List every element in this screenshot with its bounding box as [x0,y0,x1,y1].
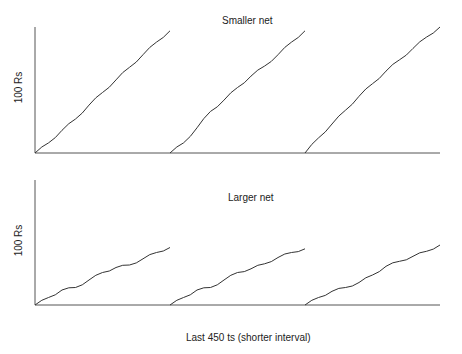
top-series-1 [35,31,170,153]
top-series-2 [170,31,305,153]
bottom-series-2 [170,249,305,305]
top-series-3 [305,27,440,153]
chart-canvas [0,0,462,354]
bottom-series-1 [35,248,170,306]
bottom-series-3 [305,245,440,305]
